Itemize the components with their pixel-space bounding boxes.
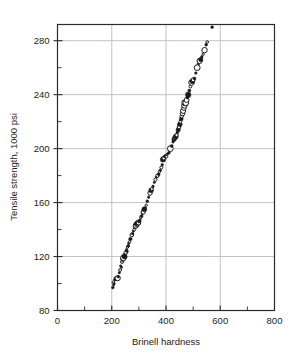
data-point xyxy=(202,47,207,52)
y-tick-label: 240 xyxy=(34,89,50,100)
chart-canvas: 0200400600800 80120160200240280 Brinell … xyxy=(0,0,296,362)
data-point xyxy=(117,275,120,278)
data-point xyxy=(186,92,191,97)
data-point xyxy=(119,269,122,272)
data-point xyxy=(160,166,163,169)
y-tick-label: 160 xyxy=(34,197,50,208)
data-point xyxy=(147,196,149,198)
data-point xyxy=(194,65,200,71)
x-axis-title: Brinell hardness xyxy=(132,336,200,347)
data-point xyxy=(201,56,204,59)
data-point xyxy=(126,250,129,253)
data-point xyxy=(202,53,204,55)
data-point xyxy=(127,244,130,247)
x-tick-label: 400 xyxy=(158,315,174,326)
y-axis-title: Tensile strength, 1000 psi xyxy=(8,113,19,221)
data-point xyxy=(154,178,157,181)
data-point xyxy=(193,77,196,80)
data-point xyxy=(195,72,198,75)
data-point xyxy=(170,144,173,147)
data-point xyxy=(128,241,130,243)
data-point xyxy=(188,89,191,92)
x-tick-label: 200 xyxy=(104,315,120,326)
x-tick-label: 0 xyxy=(55,315,60,326)
data-point xyxy=(146,200,149,203)
data-point xyxy=(140,215,143,218)
data-point xyxy=(165,155,168,158)
y-tick-label: 120 xyxy=(34,251,50,262)
data-point xyxy=(152,185,155,188)
data-point xyxy=(131,232,134,235)
data-point xyxy=(161,164,164,167)
data-point xyxy=(130,238,132,240)
x-tick-label: 600 xyxy=(212,315,228,326)
x-tick-label: 800 xyxy=(267,315,283,326)
data-point xyxy=(120,266,122,268)
scatter-plot-figure: 0200400600800 80120160200240280 Brinell … xyxy=(0,0,296,362)
data-point xyxy=(211,26,214,29)
data-point xyxy=(206,41,209,44)
y-tick-label: 280 xyxy=(34,35,50,46)
data-point xyxy=(150,188,153,191)
data-point xyxy=(113,282,115,284)
data-point xyxy=(145,204,147,206)
data-point xyxy=(111,286,114,289)
data-point xyxy=(139,219,142,222)
data-point xyxy=(144,207,147,210)
y-tick-label: 80 xyxy=(39,305,50,316)
y-tick-label: 200 xyxy=(34,143,50,154)
